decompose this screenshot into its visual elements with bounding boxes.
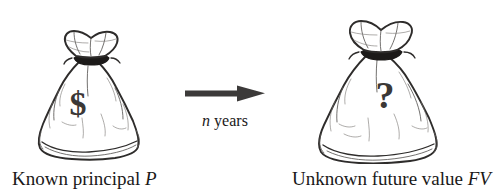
caption-future-value-symbol: FV — [468, 168, 491, 189]
money-bag-future-value: ? — [308, 6, 448, 164]
transition-arrow — [184, 85, 266, 107]
money-bag-icon: ? — [308, 6, 448, 164]
arrow-right-icon — [184, 85, 266, 107]
arrow-duration-label: n years — [175, 113, 275, 129]
arrow-duration-symbol: n — [202, 112, 210, 129]
bag-currency-mark: $ — [70, 85, 87, 122]
money-bag-principal: $ — [27, 14, 152, 162]
money-bag-icon: $ — [27, 14, 152, 162]
figure-canvas: $ n years — [0, 0, 500, 195]
caption-principal-symbol: P — [145, 168, 157, 189]
bag-unknown-mark: ? — [376, 74, 395, 116]
caption-principal: Known principal P — [12, 169, 157, 188]
caption-future-value: Unknown future value FV — [292, 169, 491, 188]
caption-principal-text: Known principal — [12, 168, 145, 189]
caption-future-value-text: Unknown future value — [292, 168, 468, 189]
arrow-duration-suffix: years — [210, 112, 248, 129]
